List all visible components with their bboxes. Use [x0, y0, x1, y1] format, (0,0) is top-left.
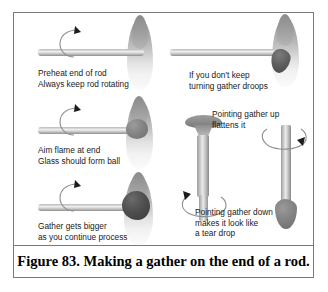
caption-line: Aim flame at end [38, 145, 120, 156]
panel-preheat-caption: Preheat end of rod Always keep rod rotat… [38, 68, 129, 89]
rotation-arrow-icon [58, 24, 88, 60]
glass-rod [38, 49, 144, 56]
glass-rod [38, 127, 138, 134]
panel-droop-caption: If you don't keep turning gather droops [189, 70, 268, 91]
caption-line: makes it look like [195, 218, 273, 229]
panel-gather-bigger-caption: Gather gets bigger as you continue proce… [38, 221, 127, 242]
rotation-arrow-icon [58, 178, 88, 214]
caption-line: Glass should form ball [38, 156, 120, 167]
rotation-arrow-icon [58, 102, 88, 138]
caption-line: as you continue process [38, 232, 127, 243]
figure-frame: Preheat end of rod Always keep rod rotat… [13, 12, 314, 278]
caption-line: Always keep rod rotating [38, 79, 129, 90]
panel-point-down-caption: Pointing gather down makes it look like … [195, 207, 273, 239]
caption-line: turning gather droops [189, 81, 268, 92]
caption-line: a tear drop [195, 228, 273, 239]
glass-gather-large [122, 191, 150, 220]
caption-line: Pointing gather down [195, 207, 273, 218]
panel-aim-flame-caption: Aim flame at end Glass should form ball [38, 145, 120, 166]
figure-caption-bar: Figure 83. Making a gather on the end of… [14, 245, 313, 277]
glass-gather-teardrop [275, 199, 297, 229]
glass-rod [170, 49, 286, 56]
caption-line: If you don't keep [189, 70, 268, 81]
flame-tip-icon [132, 15, 148, 49]
figure-illustration-area: Preheat end of rod Always keep rod rotat… [14, 13, 313, 245]
flame-tip-icon [277, 14, 293, 46]
figure-caption-text: Figure 83. Making a gather on the end of… [17, 253, 309, 270]
glass-gather-small [126, 119, 148, 139]
caption-line: Preheat end of rod [38, 68, 129, 79]
rotation-arrow-icon [257, 121, 309, 153]
caption-line: Gather gets bigger [38, 221, 127, 232]
